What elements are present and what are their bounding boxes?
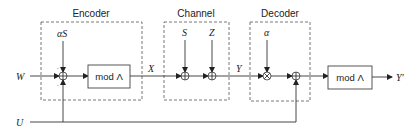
channel-adder-s-icon (181, 72, 189, 80)
decoder-adder-icon (292, 72, 300, 80)
minus-sign-top: - (57, 65, 59, 71)
signal-z-label: Z (209, 27, 215, 38)
channel-group: Channel (164, 8, 229, 100)
signal-x-label: X (147, 63, 155, 74)
signal-alpha-s-label: αS (57, 28, 67, 39)
channel-label: Channel (177, 8, 214, 19)
lattice-coding-block-diagram: Encoder Channel Decoder W αS - - U mod Λ… (0, 0, 420, 134)
signal-y-prime-label: Y' (396, 72, 405, 83)
encoder-label: Encoder (72, 8, 110, 19)
channel-dashed-box (164, 22, 229, 100)
signal-alpha-label: α (264, 27, 270, 38)
decoder-label: Decoder (261, 8, 299, 19)
channel-adder-z-icon (208, 72, 216, 80)
signal-u-label: U (16, 117, 24, 128)
encoder-mod-block: mod Λ (88, 65, 130, 88)
signal-y-label: Y (236, 63, 243, 74)
decoder-mod-label: mod Λ (336, 72, 364, 83)
minus-sign-bottom: - (57, 82, 59, 88)
signal-s-label: S (182, 27, 187, 38)
decoder-dashed-box (250, 22, 310, 101)
decoder-group: Decoder (250, 8, 310, 101)
decoder-multiplier-icon (263, 72, 271, 80)
encoder-adder-icon (59, 72, 67, 80)
signal-w-label: W (16, 71, 26, 82)
decoder-mod-block: mod Λ (328, 66, 372, 89)
encoder-mod-label: mod Λ (95, 71, 123, 82)
